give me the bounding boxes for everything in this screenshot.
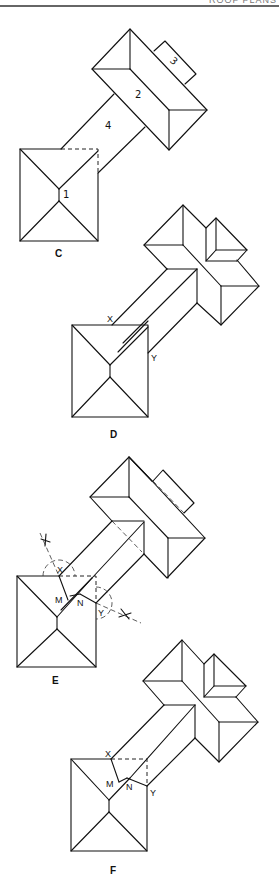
point-label-x: X xyxy=(57,565,63,575)
figure-c: 1 2 3 4 C xyxy=(20,29,207,259)
point-label-y: Y xyxy=(151,353,157,363)
wing-block xyxy=(204,654,246,697)
construction-lines xyxy=(40,533,141,623)
point-label-n: N xyxy=(77,598,84,608)
point-label-m: M xyxy=(106,779,114,789)
point-label-y: Y xyxy=(98,608,104,618)
point-label-x: X xyxy=(107,314,113,324)
roof-block-2 xyxy=(92,29,207,150)
passage-block xyxy=(111,705,195,786)
figure-f: X Y M N F xyxy=(71,640,258,876)
roof-plan-drawing: 1 2 3 4 C xyxy=(0,0,279,880)
figure-caption-f: F xyxy=(110,865,116,876)
point-label-x: X xyxy=(105,749,111,759)
part-label-1: 1 xyxy=(63,189,69,200)
figure-caption-e: E xyxy=(52,675,59,686)
point-label-n: N xyxy=(126,782,133,792)
figure-d: X Y D xyxy=(72,205,259,440)
wing-block xyxy=(206,218,247,261)
hip-block-square xyxy=(71,759,147,851)
passage-block xyxy=(112,269,197,353)
figure-caption-d: D xyxy=(110,429,117,440)
point-label-y: Y xyxy=(150,788,156,798)
figure-e: X Y M N E xyxy=(17,457,205,686)
main-hip-block xyxy=(144,205,259,325)
main-hip-block xyxy=(90,457,205,578)
part-label-2: 2 xyxy=(135,89,141,100)
figure-caption-c: C xyxy=(55,248,62,259)
roof-block-1 xyxy=(20,149,98,241)
roof-block-4 xyxy=(61,94,145,173)
hip-block-square xyxy=(72,321,148,417)
part-label-3: 3 xyxy=(168,55,180,68)
part-label-4: 4 xyxy=(105,120,111,131)
hip-block-square xyxy=(17,576,96,667)
passage-block xyxy=(59,521,144,603)
wing-block xyxy=(153,470,194,513)
point-label-m: M xyxy=(55,595,63,605)
